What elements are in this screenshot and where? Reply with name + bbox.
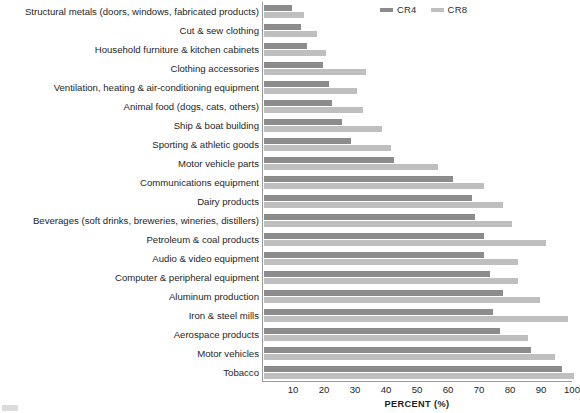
bar-cr4 xyxy=(264,328,500,334)
bar-cr4 xyxy=(264,233,484,239)
bar-cr4 xyxy=(264,81,329,87)
bar-cr4 xyxy=(264,100,332,106)
bar-cr8 xyxy=(264,278,518,284)
chart-row: Aerospace products xyxy=(263,325,572,344)
plot-area: Structural metals (doors, windows, fabri… xyxy=(262,2,572,382)
category-label: Ship & boat building xyxy=(174,116,259,135)
bar-cr4 xyxy=(264,119,342,125)
category-label: Communications equipment xyxy=(140,173,259,192)
bar-cr8 xyxy=(264,202,503,208)
category-label: Audio & video equipment xyxy=(152,249,259,268)
category-label: Sporting & athletic goods xyxy=(152,135,259,154)
chart-row: Household furniture & kitchen cabinets xyxy=(263,40,572,59)
bar-cr8 xyxy=(264,259,518,265)
category-label: Ventilation, heating & air-conditioning … xyxy=(54,78,259,97)
bar-cr8 xyxy=(264,221,512,227)
x-tick-label: 30 xyxy=(350,384,361,395)
chart-row: Ventilation, heating & air-conditioning … xyxy=(263,78,572,97)
bar-cr8 xyxy=(264,164,438,170)
x-tick-label: 80 xyxy=(505,384,516,395)
bar-cr4 xyxy=(264,43,307,49)
bar-cr4 xyxy=(264,290,503,296)
bar-cr8 xyxy=(264,297,540,303)
chart-row: Tobacco xyxy=(263,363,572,382)
x-axis-title: PERCENT (%) xyxy=(262,399,572,409)
scan-artifact xyxy=(2,405,18,411)
bar-cr8 xyxy=(264,145,391,151)
chart-row: Sporting & athletic goods xyxy=(263,135,572,154)
category-label: Cut & sew clothing xyxy=(180,21,259,40)
chart-row: Cut & sew clothing xyxy=(263,21,572,40)
category-label: Petroleum & coal products xyxy=(146,230,259,249)
bar-cr4 xyxy=(264,309,493,315)
x-tick-label: 10 xyxy=(288,384,299,395)
chart-row: Ship & boat building xyxy=(263,116,572,135)
category-label: Clothing accessories xyxy=(170,59,259,78)
chart-row: Dairy products xyxy=(263,192,572,211)
bar-cr8 xyxy=(264,88,357,94)
category-label: Tobacco xyxy=(223,363,259,382)
x-tick-label: 90 xyxy=(536,384,547,395)
category-label: Animal food (dogs, cats, others) xyxy=(124,97,259,116)
category-label: Computer & peripheral equipment xyxy=(115,268,259,287)
bar-cr8 xyxy=(264,335,528,341)
category-label: Motor vehicle parts xyxy=(178,154,259,173)
x-tick-label: 100 xyxy=(564,384,580,395)
bar-cr8 xyxy=(264,126,382,132)
x-tick-label: 60 xyxy=(443,384,454,395)
chart-row: Aluminum production xyxy=(263,287,572,306)
bar-cr8 xyxy=(264,240,546,246)
chart-row: Audio & video equipment xyxy=(263,249,572,268)
chart-row: Clothing accessories xyxy=(263,59,572,78)
bar-cr8 xyxy=(264,373,574,379)
bar-cr4 xyxy=(264,366,562,372)
chart-row: Motor vehicles xyxy=(263,344,572,363)
chart-row: Beverages (soft drinks, breweries, winer… xyxy=(263,211,572,230)
bar-cr8 xyxy=(264,12,304,18)
chart-row: Animal food (dogs, cats, others) xyxy=(263,97,572,116)
category-label: Beverages (soft drinks, breweries, winer… xyxy=(33,211,259,230)
bar-cr4 xyxy=(264,157,394,163)
category-label: Aerospace products xyxy=(174,325,259,344)
category-label: Household furniture & kitchen cabinets xyxy=(95,40,259,59)
bar-cr8 xyxy=(264,354,555,360)
category-label: Dairy products xyxy=(197,192,259,211)
bar-cr4 xyxy=(264,62,323,68)
bar-cr4 xyxy=(264,24,301,30)
category-label: Structural metals (doors, windows, fabri… xyxy=(25,2,259,21)
chart-row: Iron & steel mills xyxy=(263,306,572,325)
bar-cr4 xyxy=(264,5,292,11)
bar-cr4 xyxy=(264,214,475,220)
bar-cr8 xyxy=(264,69,366,75)
chart-row: Structural metals (doors, windows, fabri… xyxy=(263,2,572,21)
chart-row: Computer & peripheral equipment xyxy=(263,268,572,287)
chart-row: Communications equipment xyxy=(263,173,572,192)
bar-cr8 xyxy=(264,107,363,113)
chart-row: Petroleum & coal products xyxy=(263,230,572,249)
bar-cr4 xyxy=(264,138,351,144)
x-tick-label: 70 xyxy=(474,384,485,395)
category-label: Aluminum production xyxy=(169,287,259,306)
bar-cr8 xyxy=(264,183,484,189)
bar-cr4 xyxy=(264,252,484,258)
bar-cr8 xyxy=(264,316,568,322)
x-tick-label: 40 xyxy=(381,384,392,395)
x-tick-label: 50 xyxy=(412,384,423,395)
x-axis-line xyxy=(262,381,572,382)
category-label: Iron & steel mills xyxy=(189,306,259,325)
bar-cr8 xyxy=(264,50,326,56)
category-label: Motor vehicles xyxy=(197,344,259,363)
bar-cr4 xyxy=(264,176,453,182)
bar-cr4 xyxy=(264,271,490,277)
x-tick-label: 20 xyxy=(319,384,330,395)
bar-cr4 xyxy=(264,195,472,201)
bar-cr8 xyxy=(264,31,317,37)
chart-row: Motor vehicle parts xyxy=(263,154,572,173)
bar-cr4 xyxy=(264,347,531,353)
